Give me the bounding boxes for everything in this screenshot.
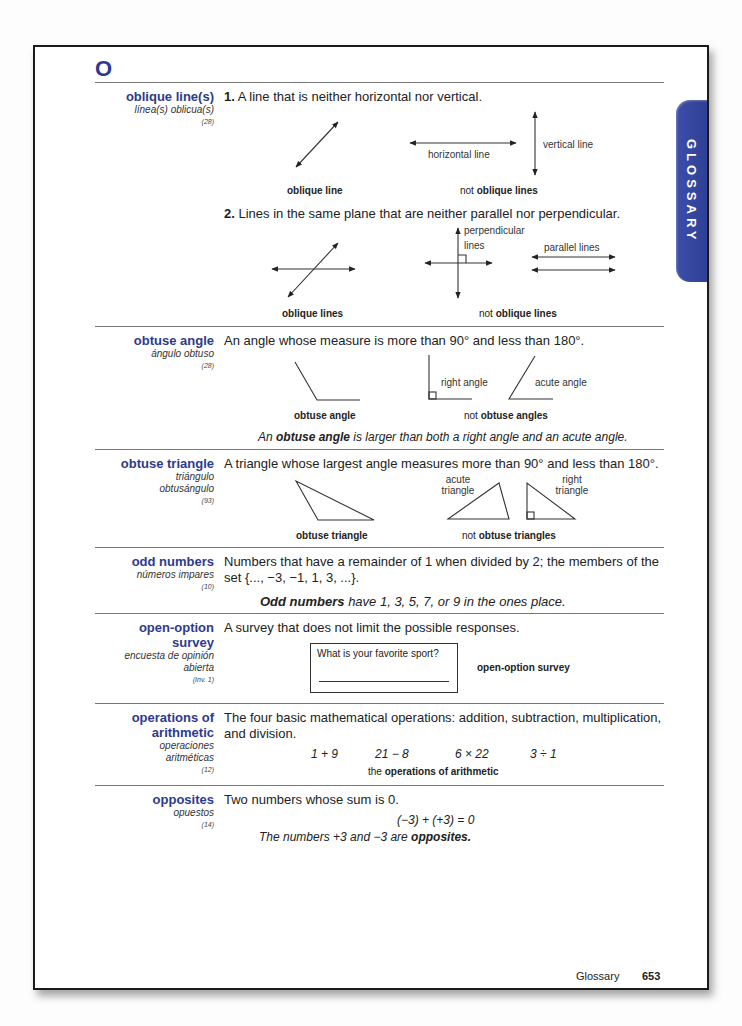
term-opposites: opposites opuestos (14) bbox=[153, 792, 214, 830]
example-subtraction: 21 − 8 bbox=[375, 746, 409, 762]
definition: An angle whose measure is more than 90° … bbox=[224, 333, 584, 349]
caption-not-obtuse-angles: not obtuse angles bbox=[464, 410, 548, 421]
caption-obtuse-angle: obtuse angle bbox=[294, 410, 356, 421]
definition-2: 2. Lines in the same plane that are neit… bbox=[224, 206, 620, 222]
definition: A survey that does not limit the possibl… bbox=[224, 620, 520, 636]
label-perpendicular: perpendicular bbox=[464, 225, 525, 236]
label-parallel-lines: parallel lines bbox=[544, 242, 600, 253]
divider bbox=[95, 547, 664, 548]
term-obtuse-triangle: obtuse triangle triángulo obtusángulo (9… bbox=[121, 456, 214, 506]
label-lines: lines bbox=[464, 240, 485, 251]
note-opposites: The numbers +3 and −3 are opposites. bbox=[259, 829, 471, 845]
divider bbox=[95, 785, 664, 786]
caption-oblique-lines: oblique lines bbox=[282, 308, 343, 319]
definition: Two numbers whose sum is 0. bbox=[224, 792, 399, 808]
caption-open-option-survey: open-option survey bbox=[477, 662, 570, 673]
definition: Numbers that have a remainder of 1 when … bbox=[224, 554, 659, 586]
definition: The four basic mathematical operations: … bbox=[224, 710, 661, 742]
glossary-tab-label: GLOSSARY bbox=[676, 100, 707, 282]
label-vertical-line: vertical line bbox=[543, 139, 593, 150]
example-equation: (−3) + (+3) = 0 bbox=[397, 812, 474, 828]
example-division: 3 ÷ 1 bbox=[530, 746, 557, 762]
label-right-triangle: righttriangle bbox=[553, 474, 591, 496]
example-multiplication: 6 × 22 bbox=[455, 746, 489, 762]
example-addition: 1 + 9 bbox=[311, 746, 338, 762]
definition: A triangle whose largest angle measures … bbox=[224, 456, 659, 472]
divider bbox=[95, 326, 664, 327]
caption-not-oblique-lines-2: not oblique lines bbox=[479, 308, 557, 319]
glossary-tab[interactable]: GLOSSARY bbox=[676, 100, 707, 282]
label-horizontal-line: horizontal line bbox=[428, 149, 490, 160]
term-obtuse-angle: obtuse angle ángulo obtuso (28) bbox=[134, 333, 214, 371]
note-obtuse-angle: An obtuse angle is larger than both a ri… bbox=[258, 429, 628, 445]
caption-oblique-line: oblique line bbox=[287, 185, 343, 196]
label-acute-triangle: acutetriangle bbox=[440, 474, 476, 496]
answer-line bbox=[319, 681, 449, 682]
caption-not-obtuse-triangles: not obtuse triangles bbox=[462, 530, 556, 541]
term-open-option-survey: open-option survey encuesta de opinión a… bbox=[124, 620, 214, 685]
caption-obtuse-triangle: obtuse triangle bbox=[296, 530, 368, 541]
footer-section: Glossary bbox=[576, 970, 619, 982]
divider bbox=[95, 613, 664, 614]
page-number: 653 bbox=[642, 970, 660, 982]
label-acute-angle: acute angle bbox=[535, 377, 587, 388]
survey-example-box: What is your favorite sport? bbox=[310, 643, 458, 693]
caption-not-oblique-lines: not oblique lines bbox=[460, 185, 538, 196]
term-odd-numbers: odd numbers números impares (10) bbox=[132, 554, 214, 592]
term-operations-of-arithmetic: operations of arithmetic operaciones ari… bbox=[132, 710, 214, 775]
label-right-angle: right angle bbox=[441, 377, 488, 388]
divider bbox=[95, 703, 664, 704]
note-odd-numbers: Odd numbers have 1, 3, 5, 7, or 9 in the… bbox=[260, 594, 566, 610]
survey-question: What is your favorite sport? bbox=[317, 648, 439, 659]
oblique-line-figure bbox=[0, 0, 742, 1026]
divider bbox=[95, 449, 664, 450]
caption-operations-of-arithmetic: the operations of arithmetic bbox=[368, 766, 499, 777]
